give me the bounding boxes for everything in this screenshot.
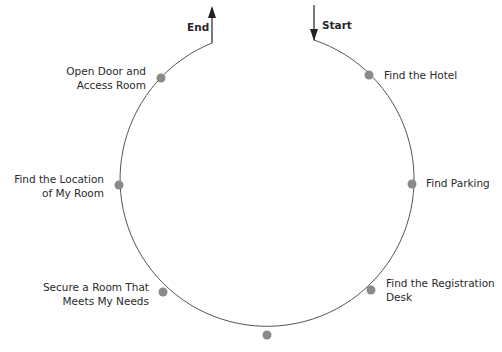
step-dot-3: [367, 286, 376, 295]
step-label-line: Find the Location: [14, 172, 104, 186]
step-label-line: Open Door and: [66, 64, 146, 78]
step-dot-5: [159, 288, 168, 297]
step-dot-7: [157, 74, 166, 83]
cycle-diagram: End Start Find the Hotel Find Parking Fi…: [0, 0, 502, 352]
step-label-line: Find the Registration: [386, 276, 495, 290]
end-label: End: [187, 20, 209, 34]
step-label-line: Access Room: [66, 78, 146, 92]
cycle-arc: [120, 40, 414, 326]
step-label-registration-desk: Find the Registration Desk: [386, 276, 495, 304]
step-dot-6: [115, 181, 124, 190]
step-label-line: of My Room: [14, 186, 104, 200]
step-label-line: Secure a Room That: [43, 280, 149, 294]
step-label-find-hotel: Find the Hotel: [384, 68, 457, 82]
step-label-line: Desk: [386, 290, 495, 304]
step-label-line: Find Parking: [426, 176, 490, 190]
start-label: Start: [322, 18, 352, 32]
step-label-open-door: Open Door and Access Room: [66, 64, 146, 92]
step-dot-2: [408, 180, 417, 189]
step-label-line: Find the Hotel: [384, 68, 457, 82]
step-label-find-parking: Find Parking: [426, 176, 490, 190]
step-label-room-location: Find the Location of My Room: [14, 172, 104, 200]
step-dot-4: [263, 331, 272, 340]
step-label-secure-room: Secure a Room That Meets My Needs: [43, 280, 149, 308]
step-label-line: Meets My Needs: [43, 294, 149, 308]
step-dot-1: [365, 71, 374, 80]
